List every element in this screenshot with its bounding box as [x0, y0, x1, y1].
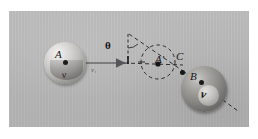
theta-angle-arc: [128, 44, 138, 48]
annotation-vector-layer: [0, 0, 258, 139]
label-theta-angle: θ: [105, 40, 111, 51]
physics-collision-figure: v v A θ A′ C B v₁: [0, 0, 258, 139]
sphere-a-surface-mark: v: [56, 69, 71, 81]
label-sphere-a: A: [55, 49, 62, 60]
sphere-a-center-dot: [63, 60, 68, 65]
label-contact-point-c: C: [176, 51, 183, 62]
label-sphere-b: B: [190, 71, 197, 82]
label-sphere-a-prime: A′: [155, 54, 164, 65]
contact-point-dot: [180, 70, 185, 75]
sphere-b-center-dot: [199, 80, 204, 85]
dashed-path-line: [124, 63, 183, 65]
label-velocity-v1: v₁: [91, 67, 97, 74]
